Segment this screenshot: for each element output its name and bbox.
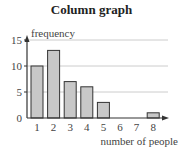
- y-axis-label: frequency: [31, 27, 75, 39]
- x-tick-label: 5: [101, 121, 107, 133]
- y-tick-label: 15: [11, 34, 23, 46]
- column-chart: 051015 12345678 frequency number of peop…: [0, 0, 183, 154]
- bars: [31, 50, 159, 118]
- x-tick-label: 1: [34, 121, 40, 133]
- x-tick-label: 3: [67, 121, 73, 133]
- bar: [81, 87, 93, 118]
- x-tick-label: 6: [117, 121, 123, 133]
- axes: [25, 35, 170, 121]
- bar: [64, 82, 76, 118]
- x-tick-label: 8: [150, 121, 156, 133]
- x-tick-labels: 12345678: [34, 121, 156, 133]
- bar: [48, 50, 60, 118]
- x-tick-label: 4: [84, 121, 90, 133]
- bar: [147, 113, 159, 118]
- y-axis-arrow-icon: [25, 35, 30, 42]
- y-tick-label: 5: [17, 86, 23, 98]
- x-tick-label: 2: [51, 121, 57, 133]
- x-tick-label: 7: [134, 121, 140, 133]
- y-tick-label: 0: [17, 112, 23, 124]
- bar: [97, 102, 109, 118]
- x-axis-label: number of people: [100, 135, 178, 147]
- y-tick-labels: 051015: [11, 34, 23, 124]
- gridlines: [24, 40, 168, 92]
- y-tick-label: 10: [11, 60, 23, 72]
- bar: [31, 66, 43, 118]
- x-axis-arrow-icon: [162, 116, 169, 121]
